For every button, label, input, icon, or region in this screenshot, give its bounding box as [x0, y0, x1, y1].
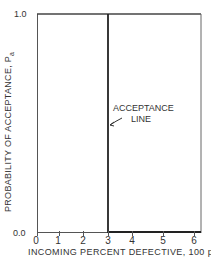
acceptance-curve: [0, 0, 211, 262]
x-tick-label: 3: [102, 235, 114, 246]
x-tick-label: 5: [157, 235, 169, 246]
x-tick-label: 4: [126, 235, 138, 246]
annotation-line1: ACCEPTANCE: [113, 103, 169, 114]
x-tick-label: 6: [188, 235, 200, 246]
annotation-line2: LINE: [113, 114, 169, 125]
x-tick-label: 2: [77, 235, 89, 246]
x-tick-label: 1: [52, 235, 64, 246]
x-axis-label: INCOMING PERCENT DEFECTIVE, 100 p: [28, 247, 211, 257]
x-tick-label: 0: [30, 235, 42, 246]
y-tick-bottom: 0.0: [13, 228, 26, 238]
y-tick-top: 1.0: [14, 9, 27, 19]
acceptance-line-annotation: ACCEPTANCE LINE: [113, 103, 169, 125]
y-axis-label: PROBABILITY OF ACCEPTANCE, Pa: [3, 52, 15, 212]
